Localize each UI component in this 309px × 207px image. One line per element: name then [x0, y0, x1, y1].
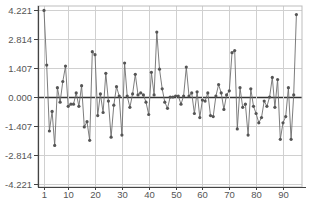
x-tick-label: 80 [251, 189, 262, 200]
x-tick-label: 90 [278, 189, 289, 200]
data-point [144, 101, 147, 104]
y-tick-label: 0.000 [8, 92, 32, 103]
data-point [147, 113, 150, 116]
data-point [230, 51, 233, 54]
data-point [161, 87, 164, 90]
data-point [214, 94, 217, 97]
data-point [220, 91, 223, 94]
chart-canvas: 4.2212.8141.4070.000-1.407-2.814-4.221 1… [0, 0, 309, 207]
x-tick-label: 70 [224, 189, 235, 200]
data-point [83, 125, 86, 128]
data-point [93, 53, 96, 56]
data-point [222, 108, 225, 111]
data-point [236, 127, 239, 130]
data-point [42, 9, 45, 12]
y-tick-label: 4.221 [8, 5, 32, 16]
data-point [99, 92, 102, 95]
data-point [204, 100, 207, 103]
data-point [247, 134, 250, 137]
data-point [115, 85, 118, 88]
data-point [158, 68, 161, 71]
y-tick-label: -1.407 [5, 121, 32, 132]
data-point [64, 65, 67, 68]
data-point [110, 136, 113, 139]
data-point [212, 115, 215, 118]
data-point [177, 94, 180, 97]
data-point [179, 103, 182, 106]
data-point [155, 30, 158, 33]
data-point [187, 94, 190, 97]
data-point [59, 101, 62, 104]
data-point [206, 91, 209, 94]
data-point [182, 94, 185, 97]
x-tick-label: 20 [90, 189, 101, 200]
y-tick-label: -4.221 [5, 179, 32, 190]
y-tick-labels: 4.2212.8141.4070.000-1.407-2.814-4.221 [5, 5, 32, 190]
y-tick-label: 2.814 [8, 34, 32, 45]
data-point [244, 103, 247, 106]
data-point [284, 115, 287, 118]
data-point [257, 121, 260, 124]
data-point [196, 90, 199, 93]
data-point [91, 50, 94, 53]
data-point [118, 94, 121, 97]
data-point [67, 105, 70, 108]
data-point [128, 106, 131, 109]
data-point [107, 100, 110, 103]
data-point [228, 89, 231, 92]
data-point [120, 134, 123, 137]
data-point [150, 71, 153, 74]
data-point [281, 121, 284, 124]
x-tick-label: 10 [63, 189, 74, 200]
data-point [217, 83, 220, 86]
y-tick-label: 1.407 [8, 63, 32, 74]
x-tick-label: 50 [171, 189, 182, 200]
data-point [276, 78, 279, 81]
data-point [85, 120, 88, 123]
data-point [295, 13, 298, 16]
data-point [190, 91, 193, 94]
data-point [112, 104, 115, 107]
data-point [252, 105, 255, 108]
data-point [198, 116, 201, 119]
data-point [271, 76, 274, 79]
data-point [96, 114, 99, 117]
x-tick-label: 1 [42, 189, 47, 200]
data-point [142, 93, 145, 96]
data-point [241, 106, 244, 109]
data-point [225, 93, 228, 96]
data-point [131, 92, 134, 95]
data-point [238, 86, 241, 89]
data-point [134, 73, 137, 76]
data-point [233, 49, 236, 52]
data-point [153, 93, 156, 96]
series-line [44, 10, 296, 145]
data-point [51, 110, 54, 113]
data-point [77, 105, 80, 108]
data-point [292, 93, 295, 96]
data-point [273, 106, 276, 109]
data-point [61, 80, 64, 83]
data-point [102, 111, 105, 114]
data-point [268, 95, 271, 98]
data-point [126, 94, 129, 97]
data-point [123, 61, 126, 64]
x-tick-labels: 1102030405060708090 [42, 189, 289, 200]
data-point [75, 91, 78, 94]
data-point [80, 84, 83, 87]
data-point [287, 86, 290, 89]
data-point [279, 138, 282, 141]
data-point [104, 72, 107, 75]
x-tick-label: 40 [144, 189, 155, 200]
data-point [166, 107, 169, 110]
data-point [45, 64, 48, 67]
data-point [139, 91, 142, 94]
data-point [290, 138, 293, 141]
data-point [249, 87, 252, 90]
data-point [48, 129, 51, 132]
data-point [72, 103, 75, 106]
data-point [185, 66, 188, 69]
x-tick-label: 60 [197, 189, 208, 200]
line-chart: 4.2212.8141.4070.000-1.407-2.814-4.221 1… [0, 0, 309, 207]
data-point [265, 105, 268, 108]
